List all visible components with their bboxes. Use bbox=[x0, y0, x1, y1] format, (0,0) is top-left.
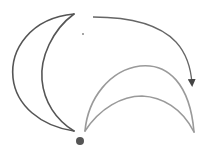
original-crescent-shape bbox=[13, 14, 74, 131]
diagram-canvas bbox=[0, 0, 216, 161]
rotation-diagram bbox=[0, 0, 216, 161]
pivot-point bbox=[76, 137, 84, 145]
rotated-crescent-shape bbox=[85, 66, 194, 132]
rotation-arrow-icon bbox=[93, 17, 192, 84]
center-marker bbox=[82, 33, 84, 35]
